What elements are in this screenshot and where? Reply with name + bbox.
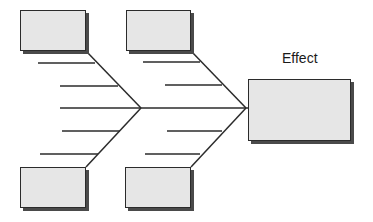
cause-box-bottom-middle	[125, 167, 191, 208]
effect-box	[248, 79, 351, 141]
cause-box-bottom-left	[20, 167, 86, 208]
effect-label: Effect	[282, 50, 318, 66]
fishbone-diagram: Effect	[0, 0, 373, 222]
bone-line	[86, 108, 141, 167]
bone-line	[86, 51, 141, 108]
cause-box-top-middle	[126, 10, 191, 51]
bone-lines	[86, 51, 246, 167]
bone-line	[191, 108, 246, 167]
bone-line	[191, 51, 246, 108]
cause-box-top-left	[20, 10, 86, 51]
